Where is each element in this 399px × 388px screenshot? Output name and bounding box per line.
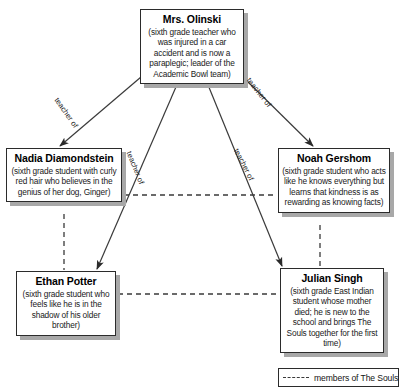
node-julian-singh[interactable]: Julian Singh (sixth grade East Indian st… [280,268,384,353]
edge-label-olinski-to-nadia: teacher of [53,96,80,130]
node-title: Nadia Diamondstein [10,152,118,165]
node-description: (sixth grade East Indian student whose m… [284,286,380,348]
node-description: (sixth grade student who acts like he kn… [282,166,386,208]
node-mrs-olinski[interactable]: Mrs. Olinski (sixth grade teacher who wa… [140,9,244,84]
node-noah-gershom[interactable]: Noah Gershom (sixth grade student who ac… [278,148,390,213]
node-description: (sixth grade student who feels like he i… [20,289,112,331]
edge-label-olinski-to-noah: teacher of [245,76,274,109]
dashed-line-icon [283,377,309,379]
character-relationship-diagram: Mrs. Olinski (sixth grade teacher who wa… [0,0,399,388]
node-title: Julian Singh [284,272,380,285]
node-title: Mrs. Olinski [144,13,240,26]
node-title: Noah Gershom [282,152,386,165]
node-title: Ethan Potter [20,275,112,288]
edge-olinski-to-nadia [60,77,141,146]
edge-label-olinski-to-julian: teacher of [232,147,256,182]
node-description: (sixth grade teacher who was injured in … [144,27,240,79]
legend-label: members of The Souls [314,373,398,383]
edge-label-olinski-to-ethan: teacher of [125,150,146,186]
node-ethan-potter[interactable]: Ethan Potter (sixth grade student who fe… [16,271,116,336]
node-nadia-diamondstein[interactable]: Nadia Diamondstein (sixth grade student … [6,148,122,202]
legend: members of The Souls [278,368,399,387]
node-description: (sixth grade student with curly red hair… [10,166,118,197]
